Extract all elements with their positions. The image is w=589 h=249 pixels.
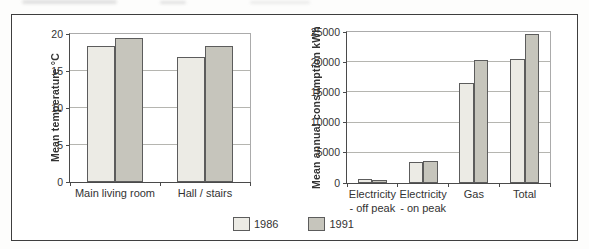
x-tick-mark (70, 182, 71, 186)
x-tick-mark (550, 183, 551, 187)
x-tick-mark (250, 182, 251, 186)
category-label: Hall / stairs (160, 187, 250, 201)
legend-label-1986: 1986 (254, 218, 278, 230)
bar-1991-gas (474, 60, 489, 183)
y-tick-label: 0 (334, 178, 347, 189)
y-tick-label: 10000 (311, 117, 347, 128)
y-tick-label: 20000 (311, 57, 347, 68)
legend-swatch-1991 (308, 217, 325, 231)
bar-1986-gas (459, 83, 474, 183)
figure-box: Mean temperature °C 05101520Main living … (11, 14, 578, 241)
y-tick-label: 20 (51, 29, 70, 40)
y-tick-label: 25000 (311, 27, 347, 38)
bar-1991-main-living-room (115, 38, 143, 182)
x-tick-mark (160, 182, 161, 186)
legend-label-1991: 1991 (329, 218, 353, 230)
bar-1991-electricity (423, 161, 438, 183)
bar-1986-main-living-room (87, 46, 115, 182)
category-label: Electricity - off peak (347, 188, 398, 216)
bar-1991-electricity (372, 180, 387, 183)
y-tick-label: 10 (51, 103, 70, 114)
y-tick-label: 5 (57, 140, 70, 151)
category-label: Main living room (70, 187, 160, 201)
legend: 1986 1991 (233, 217, 354, 231)
temperature-chart-plot: 05101520Main living roomHall / stairs (69, 33, 251, 183)
x-tick-mark (499, 183, 500, 187)
bar-1991-total (525, 34, 540, 183)
consumption-chart-plot: 0500010000150002000025000Electricity - o… (346, 31, 551, 184)
legend-item-1991: 1991 (308, 217, 353, 231)
bar-1986-electricity (358, 179, 373, 183)
y-tick-label: 15 (51, 66, 70, 77)
cropped-caption-artifact (160, 1, 186, 4)
cropped-caption-artifact (22, 0, 117, 4)
legend-swatch-1986 (233, 217, 250, 231)
axis-title-text: Mean annual consumption kWh (310, 26, 322, 189)
bar-1986-total (510, 59, 525, 183)
bar-1991-hall-stairs (205, 46, 233, 182)
cropped-caption-artifact (250, 1, 310, 4)
category-label: Electricity - on peak (398, 188, 449, 216)
x-tick-mark (448, 183, 449, 187)
legend-item-1986: 1986 (233, 217, 278, 231)
bar-1986-hall-stairs (177, 57, 205, 182)
category-label: Gas (449, 188, 500, 202)
x-tick-mark (397, 183, 398, 187)
y-tick-label: 5000 (317, 148, 347, 159)
x-tick-mark (347, 183, 348, 187)
bar-1986-electricity (409, 162, 424, 183)
consumption-axis-title: Mean annual consumption kWh (309, 31, 323, 184)
y-tick-label: 0 (57, 177, 70, 188)
category-label: Total (499, 188, 550, 202)
y-tick-label: 15000 (311, 87, 347, 98)
